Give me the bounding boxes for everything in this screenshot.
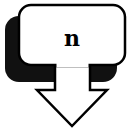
box-down-arrow-icon: n xyxy=(0,0,133,132)
box-letter: n xyxy=(64,25,80,51)
